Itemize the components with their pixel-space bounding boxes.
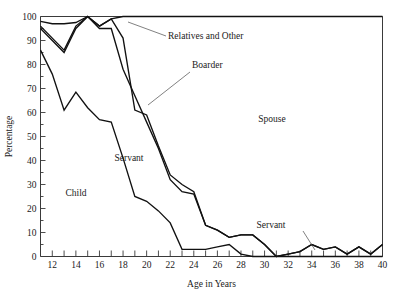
y-tick-label: 10: [27, 228, 37, 238]
series-annotation-boarder-1: Boarder: [192, 60, 223, 70]
leader-relatives: [128, 22, 166, 36]
labels-group: Relatives and OtherBoarderServantChildSp…: [65, 22, 315, 250]
x-tick-label: 36: [331, 260, 341, 270]
series-annotation-relatives-and-other-0: Relatives and Other: [168, 31, 244, 41]
series-annotation-child-3: Child: [65, 188, 86, 198]
series-annotation-servant-5: Servant: [256, 220, 285, 230]
x-tick-label: 40: [378, 260, 388, 270]
x-tick-label: 34: [307, 260, 317, 270]
series-line-child: [41, 50, 383, 256]
x-tick-label: 24: [189, 260, 199, 270]
y-tick-label: 60: [27, 108, 37, 118]
x-tick-label: 20: [142, 260, 152, 270]
x-tick-label: 12: [48, 260, 58, 270]
x-tick-label: 28: [236, 260, 246, 270]
series-annotation-servant-2: Servant: [114, 153, 143, 163]
leader-servant-right: [303, 231, 315, 250]
x-tick-label: 18: [118, 260, 128, 270]
series-group: [41, 17, 383, 257]
y-tick-label: 20: [27, 204, 37, 214]
y-tick-label: 30: [27, 180, 37, 190]
y-tick-label: 80: [27, 60, 37, 70]
x-tick-label: 32: [283, 260, 293, 270]
series-line-boarder: [41, 17, 383, 257]
series-annotation-spouse-4: Spouse: [258, 114, 285, 124]
y-tick-label: 90: [27, 36, 37, 46]
y-tick-label: 50: [27, 132, 37, 142]
chart-container: 0102030405060708090100121416182022242628…: [0, 0, 402, 297]
y-tick-label: 100: [22, 12, 37, 22]
x-tick-label: 14: [71, 260, 81, 270]
plot-frame: [41, 17, 383, 257]
y-tick-label: 70: [27, 84, 37, 94]
y-tick-label: 0: [32, 252, 37, 262]
leader-boarder: [148, 72, 190, 105]
y-axis-title: Percentage: [4, 116, 14, 158]
x-tick-label: 38: [354, 260, 364, 270]
x-tick-label: 30: [260, 260, 270, 270]
x-axis-title: Age in Years: [187, 279, 236, 289]
household-composition-line-chart: 0102030405060708090100121416182022242628…: [0, 0, 402, 297]
x-tick-label: 22: [165, 260, 175, 270]
series-line-servant: [41, 17, 383, 257]
x-tick-label: 16: [95, 260, 105, 270]
x-tick-label: 26: [213, 260, 223, 270]
y-tick-label: 40: [27, 156, 37, 166]
